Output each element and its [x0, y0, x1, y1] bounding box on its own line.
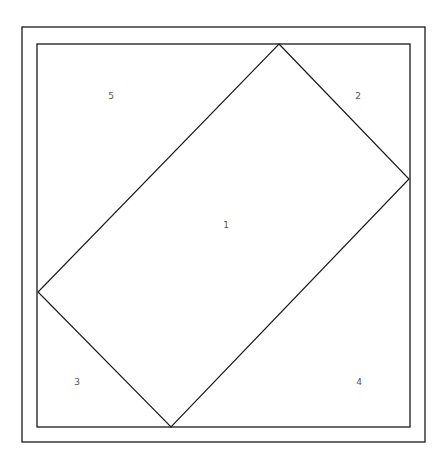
region-label-5: 5 — [108, 91, 114, 101]
region-label-2: 2 — [355, 91, 361, 101]
region-label-1: 1 — [223, 220, 229, 230]
region-label-4: 4 — [356, 377, 362, 387]
quilt-diagram: 1 2 3 4 5 — [0, 0, 446, 464]
outer-border — [22, 27, 425, 442]
center-piece — [38, 44, 409, 427]
region-label-3: 3 — [74, 377, 80, 387]
